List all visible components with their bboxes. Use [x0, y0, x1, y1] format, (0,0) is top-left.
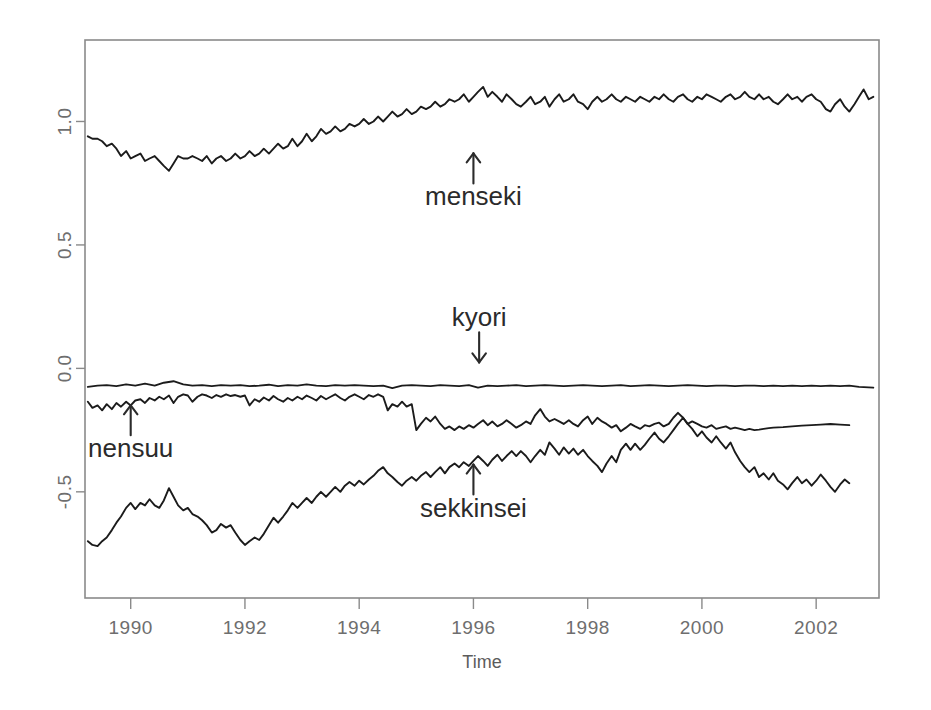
x-tick-label: 1996 [451, 617, 495, 638]
x-axis-title: Time [462, 652, 501, 672]
y-tick-label: 1.0 [55, 108, 76, 136]
time-series-plot: 1.00.50.0-0.5 19901992199419961998200020… [0, 0, 931, 710]
y-tick-label: 0.0 [55, 354, 76, 382]
chart-container: 1.00.50.0-0.5 19901992199419961998200020… [0, 0, 931, 710]
x-tick-label: 1990 [109, 617, 153, 638]
annotation-label-kyori: kyori [452, 302, 507, 332]
annotation-label-sekkinsei: sekkinsei [420, 493, 527, 523]
x-tick-label: 1992 [223, 617, 267, 638]
x-tick-label: 1998 [566, 617, 610, 638]
x-tick-label: 2000 [680, 617, 724, 638]
y-tick-label: 0.5 [55, 231, 76, 259]
annotation-label-nensuu: nensuu [88, 433, 173, 463]
x-tick-label: 1994 [337, 617, 381, 638]
plot-background [0, 0, 931, 710]
y-tick-label: -0.5 [55, 474, 76, 509]
annotation-label-menseki: menseki [425, 181, 522, 211]
x-tick-label: 2002 [794, 617, 838, 638]
